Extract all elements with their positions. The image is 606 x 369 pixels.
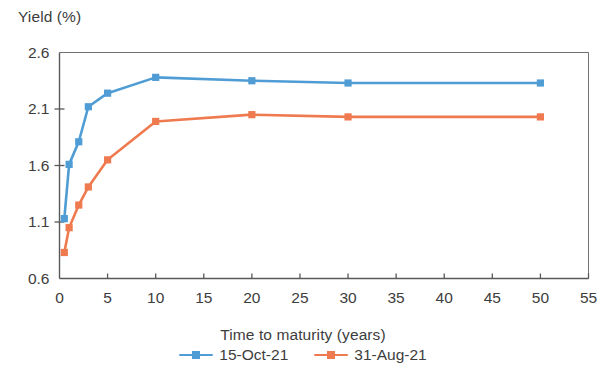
series-marker-1 bbox=[66, 224, 73, 231]
x-axis-tick-label: 45 bbox=[484, 289, 501, 307]
series-marker-0 bbox=[75, 138, 82, 145]
series-marker-0 bbox=[85, 103, 92, 110]
y-axis-tick-label: 0.6 bbox=[0, 270, 50, 288]
chart-legend: 15-Oct-2131-Aug-21 bbox=[0, 346, 606, 364]
series-marker-1 bbox=[344, 113, 351, 120]
legend-swatch-icon bbox=[179, 350, 213, 361]
series-marker-0 bbox=[104, 90, 111, 97]
legend-label: 15-Oct-21 bbox=[219, 346, 288, 364]
series-marker-0 bbox=[61, 215, 68, 222]
legend-label: 31-Aug-21 bbox=[354, 346, 426, 364]
series-marker-0 bbox=[344, 79, 351, 86]
series-marker-1 bbox=[85, 183, 92, 190]
legend-item[interactable]: 31-Aug-21 bbox=[314, 346, 426, 364]
x-axis-tick-label: 35 bbox=[388, 289, 405, 307]
x-axis-tick-label: 55 bbox=[580, 289, 597, 307]
y-axis-tick-label: 1.6 bbox=[0, 157, 50, 175]
plot-area bbox=[0, 0, 606, 369]
y-axis-tick-label: 2.6 bbox=[0, 44, 50, 62]
x-axis-tick-label: 25 bbox=[291, 289, 308, 307]
x-axis-tick-label: 40 bbox=[436, 289, 453, 307]
series-line-0 bbox=[64, 77, 540, 218]
series-marker-0 bbox=[152, 74, 159, 81]
series-marker-0 bbox=[66, 161, 73, 168]
x-axis-tick-label: 0 bbox=[55, 289, 64, 307]
yield-curve-chart: Yield (%) 0.61.11.62.12.6051015202530354… bbox=[0, 0, 606, 369]
series-marker-1 bbox=[248, 111, 255, 118]
x-axis-tick-label: 15 bbox=[195, 289, 212, 307]
series-marker-1 bbox=[537, 113, 544, 120]
x-axis-title: Time to maturity (years) bbox=[0, 326, 606, 344]
series-marker-1 bbox=[104, 156, 111, 163]
series-line-1 bbox=[64, 115, 540, 253]
legend-swatch-icon bbox=[314, 350, 348, 361]
x-axis-tick-label: 5 bbox=[103, 289, 112, 307]
x-axis-tick-label: 20 bbox=[243, 289, 260, 307]
x-axis-tick-label: 10 bbox=[147, 289, 164, 307]
y-axis-tick-label: 1.1 bbox=[0, 213, 50, 231]
series-marker-1 bbox=[75, 201, 82, 208]
legend-item[interactable]: 15-Oct-21 bbox=[179, 346, 288, 364]
series-marker-0 bbox=[248, 77, 255, 84]
x-axis-tick-label: 50 bbox=[532, 289, 549, 307]
series-marker-0 bbox=[537, 79, 544, 86]
y-axis-tick-label: 2.1 bbox=[0, 100, 50, 118]
series-marker-1 bbox=[61, 249, 68, 256]
series-marker-1 bbox=[152, 118, 159, 125]
x-axis-tick-label: 30 bbox=[339, 289, 356, 307]
